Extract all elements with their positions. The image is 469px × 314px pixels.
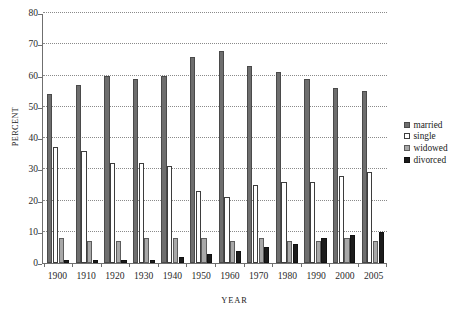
legend-item-single: single bbox=[404, 131, 468, 143]
bar-group bbox=[130, 14, 159, 263]
y-tick-label: 60 bbox=[8, 72, 38, 82]
legend-label: married bbox=[414, 120, 443, 130]
legend-swatch-divorced bbox=[404, 157, 410, 163]
bar-married-1920 bbox=[104, 76, 109, 264]
legend-label: divorced bbox=[414, 155, 447, 165]
bar-divorced-1980 bbox=[293, 244, 298, 263]
bar-divorced-1950 bbox=[207, 254, 212, 263]
bar-single-1920 bbox=[110, 163, 115, 263]
bar-married-1970 bbox=[247, 66, 252, 263]
bar-chart: 01020304050607080 PERCENT 19001910192019… bbox=[0, 0, 469, 314]
bar-divorced-2005 bbox=[379, 232, 384, 263]
bar-group bbox=[358, 14, 387, 263]
x-tick-mark bbox=[44, 263, 45, 267]
bar-widowed-1950 bbox=[201, 238, 206, 263]
bar-single-1910 bbox=[81, 151, 86, 264]
x-tick-label: 1930 bbox=[129, 270, 158, 281]
y-tick-label: 80 bbox=[8, 9, 38, 19]
x-tick-label: 1980 bbox=[273, 270, 302, 281]
bar-divorced-1940 bbox=[179, 257, 184, 263]
legend-item-divorced: divorced bbox=[404, 154, 468, 166]
bar-divorced-1960 bbox=[236, 251, 241, 264]
bar-married-1990 bbox=[304, 79, 309, 263]
bar-group bbox=[44, 14, 73, 263]
bar-divorced-1900 bbox=[64, 260, 69, 263]
x-tick-mark bbox=[244, 263, 245, 267]
bar-married-1900 bbox=[47, 94, 52, 263]
x-axis-tick-labels: 1900191019201930194019501960197019801990… bbox=[43, 270, 388, 281]
legend-swatch-single bbox=[404, 133, 410, 139]
x-tick-mark bbox=[158, 263, 159, 267]
y-tick-label: 10 bbox=[8, 228, 38, 238]
legend-item-widowed: widowed bbox=[404, 142, 468, 154]
bar-widowed-2005 bbox=[373, 241, 378, 263]
bar-group bbox=[158, 14, 187, 263]
bar-married-1910 bbox=[76, 85, 81, 263]
bar-groups bbox=[44, 14, 387, 263]
bar-widowed-1920 bbox=[116, 241, 121, 263]
gridline bbox=[43, 12, 387, 13]
legend: marriedsinglewidoweddivorced bbox=[404, 119, 468, 165]
x-tick-mark bbox=[358, 263, 359, 267]
bar-group bbox=[73, 14, 102, 263]
x-tick-mark bbox=[386, 263, 387, 267]
bar-single-1960 bbox=[224, 197, 229, 263]
x-tick-mark bbox=[72, 263, 73, 267]
bar-married-2000 bbox=[333, 88, 338, 263]
x-tick-label: 1970 bbox=[244, 270, 273, 281]
x-tick-mark bbox=[215, 263, 216, 267]
bar-widowed-1910 bbox=[87, 241, 92, 263]
x-tick-mark bbox=[272, 263, 273, 267]
bar-widowed-1940 bbox=[173, 238, 178, 263]
bar-group bbox=[187, 14, 216, 263]
x-tick-mark bbox=[129, 263, 130, 267]
x-tick-label: 1920 bbox=[101, 270, 130, 281]
bar-group bbox=[301, 14, 330, 263]
y-tick-label: 30 bbox=[8, 165, 38, 175]
x-tick-mark bbox=[186, 263, 187, 267]
bar-group bbox=[244, 14, 273, 263]
y-tick-label: 0 bbox=[8, 259, 38, 269]
bar-single-1940 bbox=[167, 166, 172, 263]
bar-divorced-1970 bbox=[264, 247, 269, 263]
x-tick-label: 2005 bbox=[359, 270, 388, 281]
bar-divorced-2000 bbox=[350, 235, 355, 263]
bar-single-2000 bbox=[339, 176, 344, 264]
y-axis-title: PERCENT bbox=[11, 87, 20, 167]
legend-item-married: married bbox=[404, 119, 468, 131]
x-tick-mark bbox=[329, 263, 330, 267]
bar-group bbox=[101, 14, 130, 263]
bar-divorced-1930 bbox=[150, 260, 155, 263]
bar-group bbox=[330, 14, 359, 263]
bar-married-1950 bbox=[190, 57, 195, 263]
bar-married-1980 bbox=[276, 72, 281, 263]
legend-label: single bbox=[414, 131, 436, 141]
bar-married-1940 bbox=[161, 76, 166, 264]
bar-widowed-1960 bbox=[230, 241, 235, 263]
bar-widowed-2000 bbox=[344, 238, 349, 263]
x-tick-label: 2000 bbox=[331, 270, 360, 281]
legend-label: widowed bbox=[414, 143, 448, 153]
bar-group bbox=[215, 14, 244, 263]
x-tick-label: 1910 bbox=[72, 270, 101, 281]
x-tick-mark bbox=[101, 263, 102, 267]
bar-divorced-1990 bbox=[321, 238, 326, 263]
bar-group bbox=[273, 14, 302, 263]
x-tick-label: 1900 bbox=[43, 270, 72, 281]
bar-widowed-1900 bbox=[59, 238, 64, 263]
plot-area bbox=[42, 14, 387, 264]
x-tick-label: 1960 bbox=[216, 270, 245, 281]
x-tick-label: 1950 bbox=[187, 270, 216, 281]
bar-married-1960 bbox=[219, 51, 224, 264]
y-tick-mark bbox=[38, 264, 42, 265]
bar-divorced-1920 bbox=[121, 260, 126, 263]
y-tick-label: 70 bbox=[8, 40, 38, 50]
bar-single-1950 bbox=[196, 191, 201, 263]
y-tick-label: 20 bbox=[8, 197, 38, 207]
x-tick-label: 1940 bbox=[158, 270, 187, 281]
bar-single-1930 bbox=[139, 163, 144, 263]
bar-single-1980 bbox=[281, 182, 286, 263]
bar-widowed-1980 bbox=[287, 241, 292, 263]
bar-widowed-1930 bbox=[144, 238, 149, 263]
bar-married-1930 bbox=[133, 79, 138, 263]
